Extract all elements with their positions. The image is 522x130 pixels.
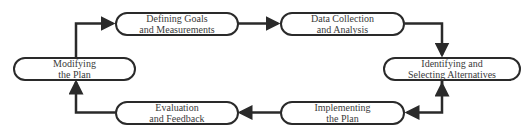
node-evaluation-feedback: Evaluationand Feedback	[115, 101, 239, 125]
node-line: Identifying and	[408, 58, 496, 69]
node-implementing-plan: Implementingthe Plan	[280, 101, 405, 125]
node-modifying-plan: Modifyingthe Plan	[13, 57, 136, 81]
arrow-modifying-to-defining	[76, 24, 113, 58]
node-line: Modifying	[53, 58, 96, 69]
node-line: and Measurements	[139, 24, 214, 35]
node-line: and Feedback	[149, 113, 204, 124]
arrow-evaluation-to-modifying	[76, 82, 115, 113]
node-defining-goals: Defining Goalsand Measurements	[115, 12, 239, 36]
node-line: the Plan	[314, 113, 370, 124]
node-line: Implementing	[314, 102, 370, 113]
node-line: the Plan	[53, 69, 96, 80]
node-line: and Analysis	[311, 24, 374, 35]
node-line: Data Collection	[311, 13, 374, 24]
node-identifying-alternatives: Identifying andSelecting Alternatives	[383, 57, 521, 81]
node-line: Evaluation	[149, 102, 204, 113]
arrow-data-to-identifying	[405, 24, 442, 56]
node-line: Selecting Alternatives	[408, 69, 496, 80]
arrow-identifying-to-implementing	[407, 80, 442, 113]
node-line: Defining Goals	[139, 13, 214, 24]
node-data-collection: Data Collectionand Analysis	[280, 12, 405, 36]
